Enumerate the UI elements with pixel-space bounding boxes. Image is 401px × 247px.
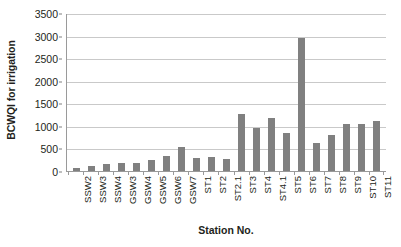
y-axis-tick-labels: 3500300025002000150010005000 (22, 14, 62, 172)
x-axis-tick-mark (369, 172, 370, 175)
x-label-slot: ST9 (339, 176, 354, 218)
bar-slot (219, 14, 234, 171)
bar (118, 163, 125, 171)
plot-area (66, 14, 386, 172)
x-label-slot: ST2.1 (218, 176, 233, 218)
x-label-slot: GSW6 (158, 176, 173, 218)
y-axis-tick-label: 2500 (35, 53, 58, 65)
bar (148, 160, 155, 171)
x-axis-tick-mark (354, 172, 355, 175)
x-axis-tick-mark (188, 172, 189, 175)
bar (328, 135, 335, 171)
bar-slot (294, 14, 309, 171)
x-label-slot: ST7 (309, 176, 324, 218)
y-axis-tick-label: 3000 (35, 31, 58, 43)
bar-chart-figure: BCWQI for irrigation 3500300025002000150… (0, 0, 401, 247)
x-axis-tick-mark (294, 172, 295, 175)
bar (373, 121, 380, 171)
bar-slot (234, 14, 249, 171)
y-axis-tick-mark (59, 14, 62, 15)
x-axis-tick-mark (264, 172, 265, 175)
bar-slot (189, 14, 204, 171)
bar (358, 124, 365, 171)
bar (253, 128, 260, 171)
bar (343, 124, 350, 171)
bar-slot (339, 14, 354, 171)
bar (103, 164, 110, 171)
bar-slot (174, 14, 189, 171)
x-axis-tick-mark (279, 172, 280, 175)
x-axis-tick-mark (309, 172, 310, 175)
x-axis-tick-label: ST11 (382, 176, 393, 198)
x-axis-tick-mark (173, 172, 174, 175)
bar (238, 114, 245, 171)
x-axis-tick-mark (113, 172, 114, 175)
bar-slot (84, 14, 99, 171)
bar-series (67, 14, 386, 171)
x-label-slot: SSW4 (98, 176, 113, 218)
bar (133, 163, 140, 171)
y-axis-tick-mark (59, 36, 62, 37)
bar-slot (99, 14, 114, 171)
bar-slot (69, 14, 84, 171)
y-axis-tick-label: 500 (40, 143, 58, 155)
x-axis-category-labels: SSW2SSW3SSW4GSW3GSW4GSW5GSW6GSW7ST1ST2ST… (66, 176, 386, 218)
bar (268, 118, 275, 171)
x-axis-tick-mark (249, 172, 250, 175)
x-label-slot: GSW4 (128, 176, 143, 218)
bar-slot (369, 14, 384, 171)
bar-slot (159, 14, 174, 171)
bar-slot (354, 14, 369, 171)
x-axis-tick-mark (339, 172, 340, 175)
x-label-slot: ST6 (294, 176, 309, 218)
x-axis-tick-mark (158, 172, 159, 175)
y-axis-tick-mark (59, 172, 62, 173)
y-axis-tick-mark (59, 104, 62, 105)
y-axis-tick-mark (59, 81, 62, 82)
x-axis-tick-mark (324, 172, 325, 175)
x-label-slot: ST2 (203, 176, 218, 218)
y-axis-tick-label: 0 (52, 166, 58, 178)
bar-slot (144, 14, 159, 171)
y-axis-title-text: BCWQI for irrigation (5, 40, 17, 140)
x-label-slot: ST1 (188, 176, 203, 218)
x-axis-title: Station No. (66, 224, 386, 236)
bar (208, 157, 215, 171)
x-label-slot: ST4.1 (264, 176, 279, 218)
y-axis-tick-label: 1000 (35, 121, 58, 133)
x-axis-tick-mark (128, 172, 129, 175)
bar-slot (279, 14, 294, 171)
bar-slot (129, 14, 144, 171)
x-axis-tick-mark (383, 172, 384, 175)
x-axis-tick-mark (143, 172, 144, 175)
y-axis-tick-label: 2000 (35, 76, 58, 88)
bar (223, 159, 230, 171)
x-label-slot: ST8 (324, 176, 339, 218)
bar (193, 158, 200, 171)
bar-slot (264, 14, 279, 171)
x-label-slot: ST5 (279, 176, 294, 218)
x-axis-tick-mark (83, 172, 84, 175)
bar (73, 168, 80, 171)
bar (313, 143, 320, 171)
y-axis-tick-mark (59, 59, 62, 60)
x-label-slot: GSW7 (173, 176, 188, 218)
x-axis-tick-mark (234, 172, 235, 175)
y-axis-tick-label: 3500 (35, 8, 58, 20)
y-axis-tick-label: 1500 (35, 98, 58, 110)
bar-slot (324, 14, 339, 171)
x-axis-tick-mark (203, 172, 204, 175)
bar-slot (204, 14, 219, 171)
x-label-slot: GSW5 (143, 176, 158, 218)
bar-slot (114, 14, 129, 171)
y-axis-title: BCWQI for irrigation (0, 0, 22, 180)
bar-slot (249, 14, 264, 171)
x-axis-tick-mark (98, 172, 99, 175)
x-label-slot: ST10 (354, 176, 369, 218)
x-label-slot: ST3 (234, 176, 249, 218)
bar-slot (309, 14, 324, 171)
x-axis-tick-mark (68, 172, 69, 175)
x-label-slot: GSW3 (113, 176, 128, 218)
x-label-slot: SSW2 (68, 176, 83, 218)
bar (298, 38, 305, 171)
